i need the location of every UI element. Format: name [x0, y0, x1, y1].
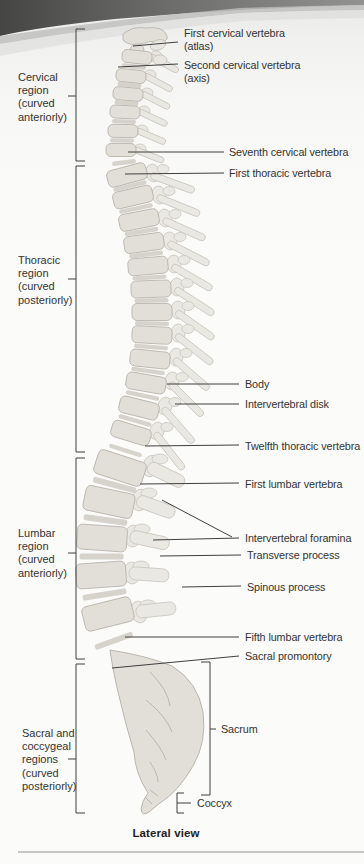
bracket-sacrum — [201, 662, 216, 795]
label-intervertebral-disk: Intervertebral disk — [245, 398, 329, 411]
label-body: Body — [245, 378, 269, 391]
leader-twelfth-thoracic-vertebra — [145, 445, 239, 446]
label-sacral-promontory: Sacral promontory — [245, 650, 332, 663]
leader-second-cervical-vertebra — [118, 64, 178, 67]
leader-sacral-promontory — [112, 656, 239, 668]
bracket-thoracic-region — [68, 166, 85, 452]
label-twelfth-thoracic-vertebra: Twelfth thoracic vertebra — [245, 440, 360, 453]
region-label-sacral-coccygeal: Sacral and coccygeal regions (curved pos… — [22, 727, 94, 793]
label-second-cervical-vertebra-axis: Second cervical vertebra (axis) — [184, 59, 300, 85]
label-spinous-process: Spinous process — [247, 581, 325, 594]
leader-intervertebral-foramina-lower — [153, 538, 239, 540]
label-transverse-process: Transverse process — [247, 549, 340, 562]
label-intervertebral-foramina: Intervertebral foramina — [245, 532, 351, 545]
leader-intervertebral-foramina-upper — [162, 500, 232, 537]
figure-canvas: Cervical region (curved anteriorly) Thor… — [0, 0, 364, 864]
leader-first-cervical-vertebra — [133, 42, 178, 46]
label-first-thoracic-vertebra: First thoracic vertebra — [229, 167, 331, 180]
label-first-lumbar-vertebra: First lumbar vertebra — [245, 478, 343, 491]
label-coccyx: Coccyx — [197, 797, 232, 810]
label-fifth-lumbar-vertebra: Fifth lumbar vertebra — [245, 631, 343, 644]
leader-spinous-process — [182, 586, 241, 587]
label-sacrum: Sacrum — [221, 723, 258, 736]
leader-first-lumbar-vertebra — [140, 483, 239, 484]
region-label-lumbar: Lumbar region (curved anteriorly) — [18, 527, 88, 580]
label-first-cervical-vertebra-atlas: First cervical vertebra (atlas) — [184, 27, 285, 53]
leader-transverse-process — [160, 555, 241, 556]
region-label-cervical: Cervical region (curved anteriorly) — [18, 71, 88, 124]
leader-first-thoracic-vertebra — [125, 173, 224, 174]
bracket-coccyx — [177, 793, 191, 813]
figure-caption: Lateral view — [118, 827, 214, 839]
label-seventh-cervical-vertebra: Seventh cervical vertebra — [229, 146, 348, 159]
region-label-thoracic: Thoracic region (curved posteriorly) — [18, 254, 88, 307]
